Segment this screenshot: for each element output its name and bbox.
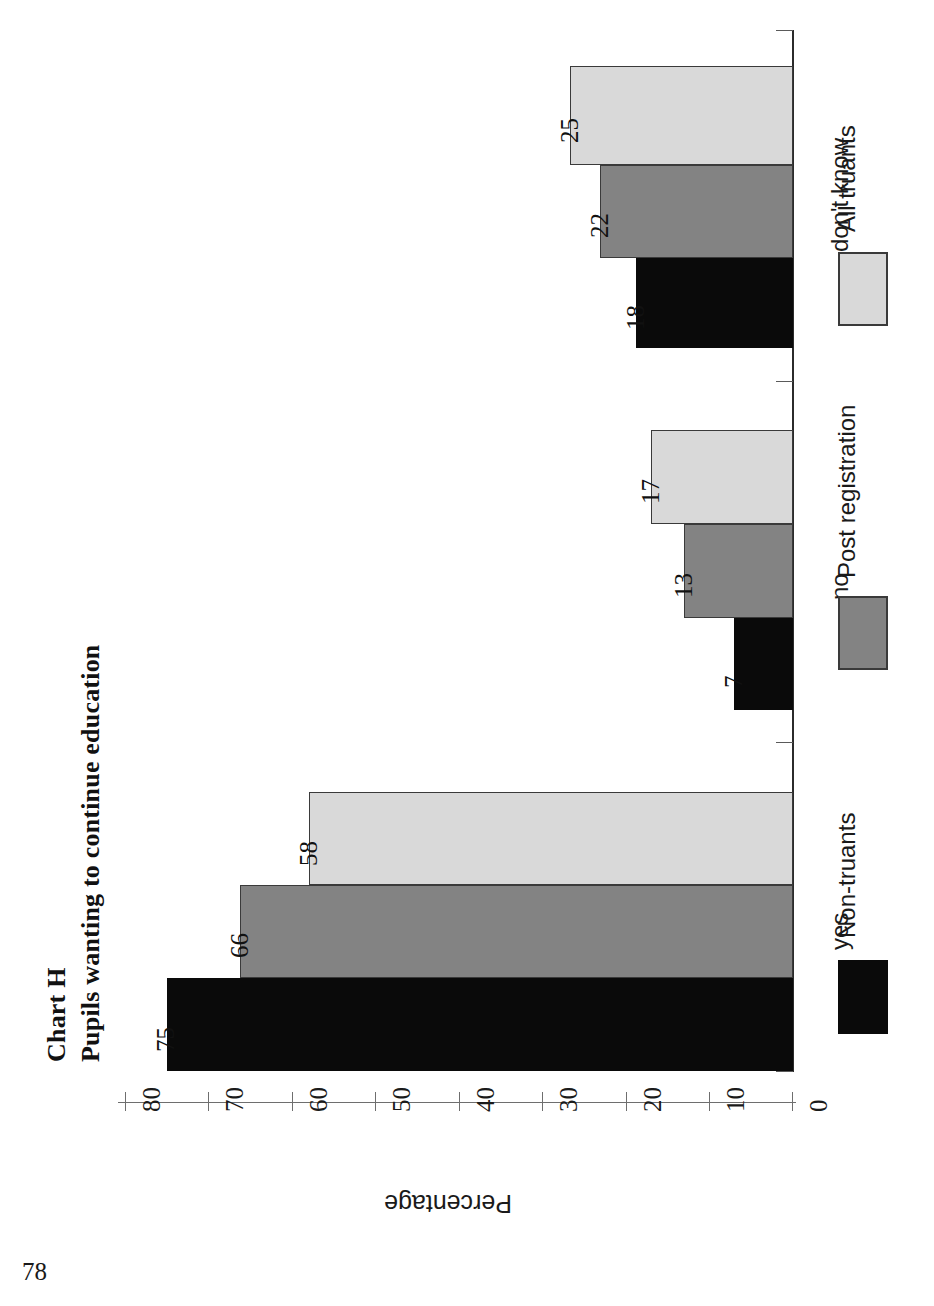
value-axis-tick	[709, 1092, 710, 1111]
chart-plot-area: 25 22 18 don't know 17 13 7 no 58 66 75 …	[0, 0, 934, 1306]
bar-value-label: 75	[152, 1027, 180, 1052]
value-axis-tick	[459, 1092, 460, 1111]
value-axis-label-70: 70	[221, 1087, 249, 1112]
category-axis-tick	[776, 381, 793, 382]
bar-value-label: 18	[622, 305, 650, 330]
value-axis-tick	[626, 1092, 627, 1111]
value-axis-label-40: 40	[472, 1087, 500, 1112]
value-axis-title: Percentage	[384, 1189, 512, 1218]
value-axis-tick	[542, 1092, 543, 1111]
bar-dont-know-all-truants	[570, 66, 793, 165]
value-axis-label-60: 60	[305, 1087, 333, 1112]
bar-value-label: 17	[637, 479, 665, 504]
bar-dont-know-post-registration	[600, 165, 793, 258]
category-axis-tick	[776, 30, 793, 31]
legend-swatch-all-truants	[838, 252, 888, 326]
value-axis-tick	[125, 1092, 126, 1111]
value-axis-tick	[208, 1092, 209, 1111]
value-axis-label-50: 50	[388, 1087, 416, 1112]
bar-yes-non-truants	[167, 978, 793, 1071]
bar-no-all-truants	[651, 430, 793, 524]
legend-label-post-registration: Post registration	[833, 405, 861, 578]
legend-label-all-truants: All truants	[833, 125, 861, 232]
value-axis-label-10: 10	[722, 1087, 750, 1112]
bar-value-label: 66	[226, 933, 254, 958]
bar-value-label: 58	[295, 841, 323, 866]
bar-no-non-truants	[734, 618, 793, 710]
value-axis-line	[118, 1102, 796, 1103]
bar-value-label: 25	[556, 118, 584, 143]
value-axis-tick	[375, 1092, 376, 1111]
value-axis-label-20: 20	[639, 1087, 667, 1112]
legend-swatch-non-truants	[838, 960, 888, 1034]
category-axis-tick	[776, 1071, 793, 1072]
value-axis-tick	[292, 1092, 293, 1111]
bar-dont-know-non-truants	[636, 258, 793, 348]
bar-yes-all-truants	[309, 792, 793, 885]
bar-value-label: 7	[720, 676, 748, 689]
legend-swatch-post-registration	[838, 596, 888, 670]
legend-label-non-truants: Non-truants	[833, 813, 861, 938]
value-axis-label-80: 80	[138, 1087, 166, 1112]
bar-yes-post-registration	[240, 885, 793, 978]
value-axis-label-30: 30	[555, 1087, 583, 1112]
value-axis-label-0: 0	[805, 1100, 833, 1113]
page-number: 78	[22, 1258, 47, 1286]
bar-no-post-registration	[684, 524, 793, 618]
value-axis-tick	[792, 1092, 793, 1111]
bar-value-label: 13	[670, 573, 698, 598]
bar-value-label: 22	[586, 213, 614, 238]
category-axis-tick	[776, 742, 793, 743]
